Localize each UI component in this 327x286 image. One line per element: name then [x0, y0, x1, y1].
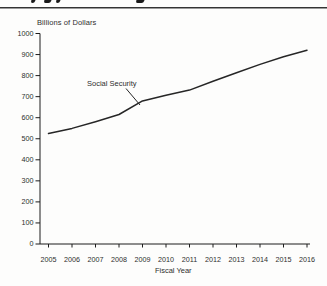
y-tick-label: 800: [22, 71, 34, 80]
y-tick-label: 0: [30, 239, 34, 248]
y-tick-label: 300: [22, 176, 34, 185]
x-tick-label: 2007: [88, 255, 104, 264]
x-tick-label: 2016: [299, 255, 315, 264]
line-chart: 0100200300400500600700800900100020052006…: [0, 0, 327, 286]
annotation-pointer-line: [126, 89, 140, 106]
y-tick-label: 600: [22, 113, 34, 122]
y-tick-label: 700: [22, 92, 34, 101]
x-tick-label: 2006: [64, 255, 80, 264]
chart-page: Billions of Dollars 01002003004005006007…: [0, 0, 327, 286]
x-tick-label: 2011: [182, 255, 197, 264]
y-tick-label: 1000: [18, 29, 34, 38]
x-tick-label: 2015: [276, 255, 292, 264]
y-tick-label: 200: [22, 197, 34, 206]
x-tick-label: 2013: [229, 255, 245, 264]
x-tick-label: 2012: [205, 255, 221, 264]
y-tick-label: 900: [22, 50, 34, 59]
x-tick-label: 2009: [135, 255, 151, 264]
y-tick-label: 400: [22, 155, 34, 164]
x-tick-label: 2005: [41, 255, 57, 264]
data-line-social-security: [49, 50, 308, 133]
x-tick-label: 2014: [252, 255, 268, 264]
x-axis-caption-text: Fiscal Year: [155, 266, 192, 275]
y-tick-label: 100: [22, 218, 34, 227]
x-tick-label: 2008: [111, 255, 127, 264]
y-tick-label: 500: [22, 134, 34, 143]
series-annotation-label: Social Security: [87, 79, 137, 88]
x-tick-label: 2010: [158, 255, 174, 264]
